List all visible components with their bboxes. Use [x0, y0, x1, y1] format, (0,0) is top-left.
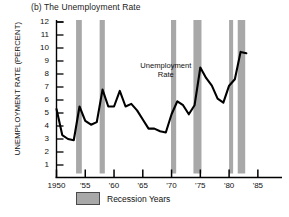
- recession-band: [238, 20, 245, 174]
- figure-container: (b) The Unemployment Rate UNEMPLOYMENT R…: [0, 0, 289, 217]
- annotation-line-1: Unemployment: [133, 61, 199, 70]
- recession-band: [76, 20, 82, 174]
- recession-band: [171, 20, 176, 174]
- x-tick-label: '70: [157, 182, 187, 190]
- y-tick-label: 9: [33, 57, 49, 65]
- x-tick-label: '60: [99, 182, 129, 190]
- x-tick-label: 1950: [42, 182, 72, 190]
- y-tick-label: 10: [33, 44, 49, 52]
- recession-band: [193, 20, 201, 174]
- y-tick-label: 7: [33, 83, 49, 91]
- y-tick-label: 4: [33, 122, 49, 130]
- legend-swatch-recession-years: [76, 192, 100, 205]
- x-tick-label: '80: [214, 182, 244, 190]
- y-tick-label: 3: [33, 135, 49, 143]
- chart-legend: Recession Years: [76, 192, 170, 205]
- series-annotation-unemployment-rate: Unemployment Rate: [133, 61, 199, 79]
- y-tick-label: 6: [33, 96, 49, 104]
- y-tick-label: 2: [33, 148, 49, 156]
- x-tick-label: '55: [70, 182, 100, 190]
- x-tick-label: '65: [128, 182, 158, 190]
- y-tick-label: 1: [33, 161, 49, 169]
- y-tick-label: 12: [33, 18, 49, 26]
- y-tick-label: 11: [33, 31, 49, 39]
- legend-label-recession-years: Recession Years: [107, 194, 170, 204]
- x-tick-label: '85: [243, 182, 273, 190]
- y-tick-label: 8: [33, 70, 49, 78]
- y-tick-label: 5: [33, 109, 49, 117]
- annotation-line-2: Rate: [133, 70, 199, 79]
- x-tick-label: '75: [185, 182, 215, 190]
- recession-band: [229, 20, 233, 174]
